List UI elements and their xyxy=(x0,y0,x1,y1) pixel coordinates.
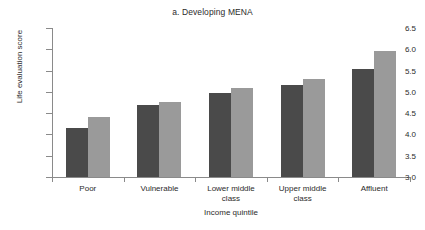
x-tick-label-line: Lower middle xyxy=(195,184,267,194)
bar xyxy=(303,79,325,177)
bar xyxy=(137,105,159,177)
x-tick-label-line: class xyxy=(195,194,267,204)
bar xyxy=(159,102,181,177)
x-tick-mark xyxy=(267,177,268,182)
x-tick-label: Poor xyxy=(52,184,124,194)
bar xyxy=(374,51,396,177)
x-tick-mark xyxy=(195,177,196,182)
x-tick-mark xyxy=(124,177,125,182)
bar xyxy=(88,117,110,177)
x-axis-title: Income quintile xyxy=(52,208,410,217)
plot-area xyxy=(52,28,410,177)
x-tick-mark xyxy=(52,177,53,182)
x-tick-label-line: Upper middle xyxy=(267,184,339,194)
x-tick-label-line: class xyxy=(267,194,339,204)
x-tick-mark xyxy=(338,177,339,182)
x-tick-label-line: Vulnerable xyxy=(124,184,196,194)
chart-title: a. Developing MENA xyxy=(0,7,425,17)
bar xyxy=(209,93,231,177)
x-axis-line xyxy=(52,177,411,178)
bar xyxy=(231,88,253,177)
x-tick-label-line: Poor xyxy=(52,184,124,194)
x-tick-label: Lower middleclass xyxy=(195,184,267,204)
x-tick-label: Upper middleclass xyxy=(267,184,339,204)
x-tick-label: Vulnerable xyxy=(124,184,196,194)
x-tick-mark xyxy=(410,177,411,182)
bar xyxy=(281,85,303,177)
x-tick-label: Affluent xyxy=(338,184,410,194)
y-axis-title: Life evaluation score xyxy=(15,12,24,122)
bar xyxy=(352,69,374,177)
x-tick-label-line: Affluent xyxy=(338,184,410,194)
chart-figure: a. Developing MENA Life evaluation score… xyxy=(0,0,425,230)
bar xyxy=(66,128,88,177)
